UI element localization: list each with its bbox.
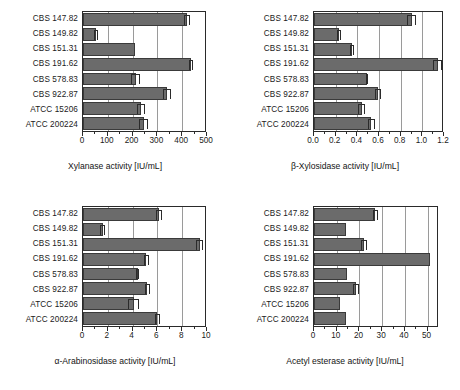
chart-panel-alpha-arabinosidase: CBS 147.82CBS 149.82CBS 151.31CBS 191.62… xyxy=(0,195,230,390)
x-axis-title: β-Xylosidase activity [IU/mL] xyxy=(230,161,460,171)
x-axis-tick-labels: 0100200300400500 xyxy=(82,136,206,148)
category-label: ATCC 15206 xyxy=(0,102,82,117)
x-tick xyxy=(358,327,359,331)
x-tick-minor xyxy=(194,132,195,134)
error-bar xyxy=(353,284,360,293)
category-label: ATCC 15206 xyxy=(0,297,82,312)
bar-row xyxy=(314,42,442,57)
error-bar xyxy=(156,210,162,219)
category-label: CBS 151.31 xyxy=(0,236,82,251)
bar-row xyxy=(314,252,437,267)
error-bar xyxy=(366,74,368,83)
category-label: ATCC 15206 xyxy=(230,102,313,117)
x-tick xyxy=(156,132,157,136)
bar xyxy=(314,117,371,130)
x-tick-label: 6 xyxy=(154,331,159,340)
x-tick xyxy=(404,327,405,331)
bar-row xyxy=(83,42,205,57)
x-tick xyxy=(206,132,207,136)
x-tick-label: 0 xyxy=(311,331,316,340)
x-tick-label: 0.0 xyxy=(307,136,318,145)
bar xyxy=(314,312,346,325)
bar-row xyxy=(83,311,205,326)
x-axis-tick-labels: 0.00.20.40.60.81.01.2 xyxy=(313,136,443,148)
bar-row xyxy=(314,207,437,222)
bar xyxy=(314,102,362,115)
bar xyxy=(83,58,191,71)
category-axis-labels: CBS 147.82CBS 149.82CBS 151.31CBS 191.62… xyxy=(230,11,313,132)
x-axis-tick-labels: 0246810 xyxy=(82,331,206,343)
x-tick-minor xyxy=(389,132,390,134)
category-label: CBS 922.87 xyxy=(0,87,82,102)
x-tick xyxy=(132,132,133,136)
bar xyxy=(83,43,135,56)
category-label: CBS 578.83 xyxy=(230,267,313,282)
error-bar xyxy=(196,240,203,249)
x-axis-title: α-Arabinosidase activity [IU/mL] xyxy=(0,356,230,366)
x-tick-label: 10 xyxy=(201,331,210,340)
bar-row xyxy=(314,101,442,116)
bar xyxy=(83,102,141,115)
bar-row xyxy=(314,86,442,101)
category-label: CBS 922.87 xyxy=(230,87,313,102)
bar-series xyxy=(83,12,205,131)
x-axis-tick-labels: 01020304050 xyxy=(313,331,438,343)
bar xyxy=(314,208,375,221)
error-bar xyxy=(163,89,170,98)
category-label: CBS 151.31 xyxy=(0,41,82,56)
bar-row xyxy=(314,12,442,27)
category-label: CBS 147.82 xyxy=(0,206,82,221)
plot-wrapper: CBS 147.82CBS 149.82CBS 151.31CBS 191.62… xyxy=(230,0,460,195)
x-tick-minor xyxy=(415,327,416,329)
x-tick-minor xyxy=(119,327,120,329)
x-tick-minor xyxy=(411,132,412,134)
x-tick-label: 0.6 xyxy=(372,136,383,145)
bar xyxy=(314,28,339,41)
x-tick-label: 30 xyxy=(377,331,386,340)
x-tick xyxy=(427,327,428,331)
plot-area xyxy=(313,11,443,132)
x-tick-label: 100 xyxy=(100,136,114,145)
bar xyxy=(314,13,412,26)
x-tick-minor xyxy=(94,327,95,329)
bar-series xyxy=(314,12,442,131)
bar-row xyxy=(83,296,205,311)
error-bar xyxy=(368,119,375,128)
bar-row xyxy=(314,267,437,282)
category-label: CBS 149.82 xyxy=(230,26,313,41)
error-bar xyxy=(144,255,149,264)
x-tick xyxy=(181,327,182,331)
category-label: CBS 147.82 xyxy=(230,206,313,221)
bar xyxy=(314,238,364,251)
x-axis-title: Acetyl esterase activity [IU/mL] xyxy=(230,356,460,366)
bar xyxy=(83,13,187,26)
bar-row xyxy=(314,281,437,296)
category-label: CBS 191.62 xyxy=(230,251,313,266)
plot-wrapper: CBS 147.82CBS 149.82CBS 151.31CBS 191.62… xyxy=(230,195,460,390)
x-tick-minor xyxy=(346,132,347,134)
x-tick-minor xyxy=(169,132,170,134)
category-label: CBS 922.87 xyxy=(230,282,313,297)
x-tick-minor xyxy=(144,132,145,134)
x-tick-minor xyxy=(393,327,394,329)
x-tick-minor xyxy=(370,327,371,329)
bar-row xyxy=(314,311,437,326)
error-bar xyxy=(358,104,365,113)
bar xyxy=(83,238,200,251)
x-tick xyxy=(336,327,337,331)
category-label: CBS 191.62 xyxy=(0,56,82,71)
x-tick xyxy=(421,132,422,136)
x-tick xyxy=(181,132,182,136)
figure-enzyme-activity-panels: CBS 147.82CBS 149.82CBS 151.31CBS 191.62… xyxy=(0,0,460,390)
category-label: CBS 147.82 xyxy=(230,11,313,26)
category-label: CBS 151.31 xyxy=(230,236,313,251)
error-bar xyxy=(136,269,140,278)
x-tick xyxy=(356,132,357,136)
chart-panel-beta-xylosidase: CBS 147.82CBS 149.82CBS 151.31CBS 191.62… xyxy=(230,0,460,195)
x-tick-label: 0.8 xyxy=(394,136,405,145)
bar-row xyxy=(83,101,205,116)
error-bar xyxy=(137,104,144,113)
x-tick-minor xyxy=(367,132,368,134)
category-label: CBS 149.82 xyxy=(0,221,82,236)
error-bar xyxy=(407,15,416,24)
